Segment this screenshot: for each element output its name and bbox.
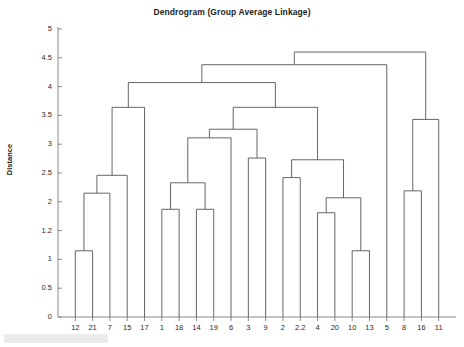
- leaf-label: 11: [425, 323, 453, 332]
- dendrogram-link: [413, 119, 439, 317]
- dendrogram-link: [326, 198, 361, 251]
- dendrogram-link: [318, 213, 335, 317]
- dendrogram-link: [196, 209, 213, 317]
- dendrogram-link: [112, 107, 144, 317]
- dendrogram-link: [75, 251, 92, 317]
- y-tick-label: 2: [14, 197, 52, 206]
- y-tick-label: 1.2: [14, 226, 52, 235]
- dendrogram-link: [202, 65, 387, 317]
- dendrogram-link: [188, 138, 231, 317]
- dendrogram-link: [404, 191, 421, 317]
- dendrogram-link: [128, 83, 275, 108]
- dendrogram-link: [170, 183, 205, 209]
- axis-group: [58, 27, 456, 321]
- y-tick-label: 4: [14, 82, 52, 91]
- dendrogram-figure: Dendrogram (Group Average Linkage) Dista…: [0, 0, 464, 347]
- dendrogram-svg: [0, 0, 464, 347]
- dendrogram-link: [283, 178, 300, 317]
- dendrogram-link: [248, 158, 265, 317]
- y-tick-label: 2.5: [14, 168, 52, 177]
- y-tick-label: 5: [14, 24, 52, 33]
- dendrogram-link: [97, 175, 127, 317]
- dendrogram-link: [294, 52, 425, 119]
- y-tick-label: 3: [14, 139, 52, 148]
- y-tick-label: 1: [14, 254, 52, 263]
- dendrogram-link: [209, 129, 257, 158]
- dendrogram-link: [292, 160, 344, 198]
- dendrogram-links: [75, 52, 438, 317]
- dendrogram-link: [352, 251, 369, 317]
- dendrogram-link: [84, 193, 110, 317]
- y-tick-label: 4.5: [14, 53, 52, 62]
- plot-area: [0, 0, 464, 347]
- y-tick-label: 0.5: [14, 283, 52, 292]
- dendrogram-link: [162, 209, 179, 317]
- y-tick-label: 0: [14, 312, 52, 321]
- y-tick-label: 3.5: [14, 110, 52, 119]
- dendrogram-link: [233, 107, 317, 159]
- footer-bar: [4, 334, 108, 343]
